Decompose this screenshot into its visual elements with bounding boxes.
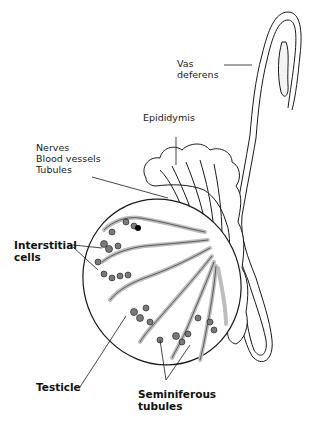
label-nerves-blood-vessels-tubules: Nerves Blood vessels Tubules [36,142,101,175]
testicle-diagram [0,0,312,423]
label-seminiferous-tubules: Seminiferous tubules [138,388,216,412]
label-vas-deferens: Vas deferens [177,58,219,80]
label-nerves: Nerves [36,142,101,153]
label-epididymis-text: Epididymis [143,112,195,123]
label-interstitial-line1: Interstitial [14,239,77,251]
label-vas-deferens-line1: Vas [177,58,219,69]
label-tubules: Tubules [36,164,101,175]
label-blood-vessels: Blood vessels [36,153,101,164]
label-epididymis: Epididymis [143,112,195,123]
label-interstitial-line2: cells [14,251,77,263]
label-seminiferous-line1: Seminiferous [138,388,216,400]
label-vas-deferens-line2: deferens [177,69,219,80]
label-seminiferous-line2: tubules [138,400,216,412]
label-testicle: Testicle [36,381,81,393]
label-testicle-text: Testicle [36,381,81,393]
label-interstitial-cells: Interstitial cells [14,239,77,263]
